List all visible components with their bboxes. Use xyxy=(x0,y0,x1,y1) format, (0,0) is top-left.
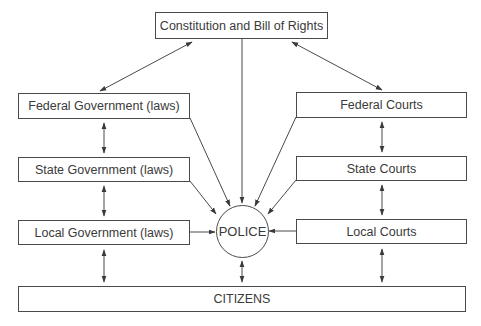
edge-federal-courts-police xyxy=(255,117,296,206)
police-relationships-diagram: Constitution and Bill of Rights Federal … xyxy=(0,0,481,326)
edge-constitution-federal-courts xyxy=(292,42,382,90)
node-local-government: Local Government (laws) xyxy=(18,220,190,245)
node-constitution: Constitution and Bill of Rights xyxy=(155,12,328,39)
node-federal-government: Federal Government (laws) xyxy=(18,93,190,119)
node-local-courts: Local Courts xyxy=(296,219,467,244)
node-state-government: State Government (laws) xyxy=(18,157,190,182)
edge-state-government-police xyxy=(190,181,216,214)
edge-state-courts-police xyxy=(268,180,296,214)
edge-federal-government-police xyxy=(190,118,230,206)
node-police: POLICE xyxy=(216,205,269,258)
node-state-courts: State Courts xyxy=(296,156,467,181)
node-citizens: CITIZENS xyxy=(18,286,466,312)
node-federal-courts: Federal Courts xyxy=(296,92,467,118)
edge-constitution-federal-government xyxy=(100,42,192,91)
